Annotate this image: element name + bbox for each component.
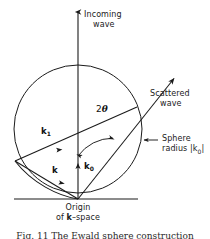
k-vector-arrowhead <box>58 180 65 184</box>
k0-subscript: 0 <box>90 165 94 172</box>
k0-symbol: k <box>84 161 90 171</box>
scattered-wave-label: Scattered wave <box>150 89 208 108</box>
theta-symbol: θ <box>102 104 108 114</box>
sphere-radius-label: Sphere radius |k0| <box>162 134 210 156</box>
incoming-wave-label-line2: wave <box>84 20 144 30</box>
k-symbol: k <box>52 165 58 175</box>
ewald-sphere-figure: Incoming wave Scattered wave Sphere radi… <box>0 0 210 239</box>
scattered-wave-label-line2: wave <box>150 99 208 109</box>
sphere-radius-label-line2: radius |k0| <box>162 144 210 156</box>
sphere-radius-prefix: radius |k <box>162 144 198 153</box>
k1-chord-line <box>15 107 137 161</box>
origin-prefix: of <box>56 213 67 222</box>
figure-caption: Fig. 11 The Ewald sphere construction <box>0 231 210 239</box>
incoming-wave-label-line1: Incoming <box>84 10 144 20</box>
sphere-radius-label-line1: Sphere <box>162 134 210 144</box>
k1-subscript: 1 <box>47 130 51 137</box>
origin-label-line2: of k–space <box>28 213 128 223</box>
two-theta-arc-arrowhead-right <box>108 135 114 140</box>
two-theta-angle-arc <box>78 138 113 156</box>
k1-vector-arrowhead <box>56 148 62 153</box>
origin-label: Origin of k–space <box>28 203 128 222</box>
k-vector-label: k <box>52 165 58 175</box>
k0-vector-label: k0 <box>84 161 94 171</box>
origin-label-line1: Origin <box>28 203 128 213</box>
scattered-wave-label-line1: Scattered <box>150 89 208 99</box>
k1-vector-label: k1 <box>41 126 51 136</box>
origin-suffix: –space <box>72 213 100 222</box>
k1-vector-line <box>15 161 78 199</box>
k1-symbol: k <box>41 126 47 136</box>
two-theta-arc-arrowhead-left <box>76 154 82 158</box>
sphere-radius-suffix: | <box>201 144 204 153</box>
two-theta-label: 2θ <box>96 104 108 114</box>
incoming-wave-label: Incoming wave <box>84 10 144 29</box>
